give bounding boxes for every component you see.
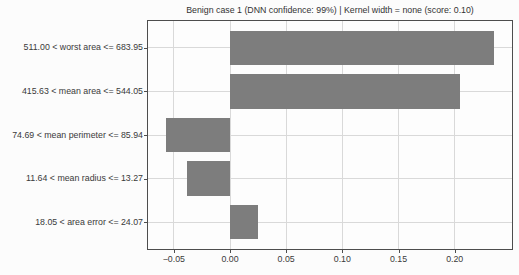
plot-area	[147, 20, 513, 250]
x-tick-label: 0.00	[210, 254, 250, 265]
bar	[187, 161, 230, 196]
chart-title: Benign case 1 (DNN confidence: 99%) | Ke…	[147, 5, 513, 16]
screenshot-root: { "chart_data": { "type": "bar", "orient…	[0, 0, 519, 275]
x-tick-mark	[230, 250, 231, 253]
x-tick-mark	[286, 250, 287, 253]
y-tick-mark	[144, 222, 147, 223]
gridline-horizontal	[148, 222, 512, 223]
x-tick-mark	[174, 250, 175, 253]
y-tick-label: 18.05 < area error <= 24.07	[0, 217, 143, 228]
x-tick-label: 0.05	[266, 254, 306, 265]
bar-chart-figure: Benign case 1 (DNN confidence: 99%) | Ke…	[0, 0, 519, 275]
x-tick-mark	[455, 250, 456, 253]
x-tick-label: −0.05	[154, 254, 194, 265]
y-tick-label: 11.64 < mean radius <= 13.27	[0, 173, 143, 184]
x-tick-label: 0.20	[435, 254, 475, 265]
x-tick-label: 0.15	[379, 254, 419, 265]
y-tick-label: 511.00 < worst area <= 683.95	[0, 42, 143, 53]
y-tick-label: 415.63 < mean area <= 544.05	[0, 86, 143, 97]
bar	[230, 74, 460, 109]
bar	[230, 205, 258, 240]
x-tick-label: 0.10	[322, 254, 362, 265]
y-tick-label: 74.69 < mean perimeter <= 85.94	[0, 130, 143, 141]
y-tick-mark	[144, 179, 147, 180]
x-tick-mark	[342, 250, 343, 253]
bar	[166, 118, 230, 153]
x-tick-mark	[399, 250, 400, 253]
y-tick-mark	[144, 135, 147, 136]
bar	[230, 31, 494, 66]
y-tick-mark	[144, 48, 147, 49]
y-tick-mark	[144, 91, 147, 92]
